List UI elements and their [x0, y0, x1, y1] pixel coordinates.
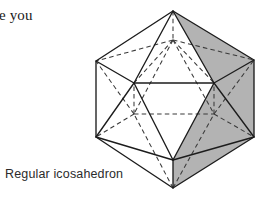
hidden-edge-bottom-to-lower-back-left — [134, 114, 173, 188]
edge-front-left-to-left-out — [96, 61, 134, 83]
edge-front-left-to-left-low — [96, 83, 134, 137]
figure-page: re you — [0, 0, 261, 206]
figure-caption: Regular icosahedron — [5, 167, 123, 182]
edge-front-left-to-lower-front — [134, 83, 173, 160]
hidden-edge-lower-back-left-to-left-out — [96, 61, 134, 114]
hidden-edge-lower-back-left-to-left-low — [96, 114, 134, 137]
shaded-face-group — [173, 11, 254, 188]
edge-lower-front-to-left-low — [96, 137, 173, 160]
hidden-edge-upper-back-left-out — [96, 40, 173, 61]
